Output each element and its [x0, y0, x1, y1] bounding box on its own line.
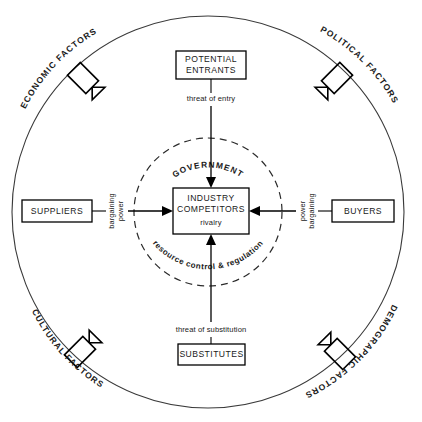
- threat-of-entry-arrowhead: [206, 177, 216, 188]
- political-factors-label: POLITICAL FACTORS: [319, 24, 401, 105]
- suppliers-node: SUPPLIERS: [22, 200, 92, 222]
- suppliers-bargaining-label-line2: power: [116, 200, 125, 221]
- potential-entrants-line2: ENTRANTS: [186, 65, 236, 75]
- industry-competitors-line1: INDUSTRY: [187, 193, 234, 203]
- industry-competitors-sub: rivalry: [200, 218, 222, 227]
- industry-competitors-node: INDUSTRY COMPETITORS rivalry: [173, 188, 249, 234]
- threat-of-substitution-label: threat of substitution: [176, 325, 247, 334]
- suppliers-arrowhead: [162, 206, 173, 216]
- suppliers-label: SUPPLIERS: [31, 206, 83, 216]
- potential-entrants-node: POTENTIAL ENTRANTS: [176, 51, 246, 79]
- political-factors-label-text: POLITICAL FACTORS: [319, 24, 401, 105]
- buyers-arrowhead: [249, 206, 260, 216]
- economic-factors-marker: [67, 62, 104, 99]
- industry-competitors-line2: COMPETITORS: [177, 204, 245, 214]
- buyers-bargaining-label-line2: power: [298, 200, 307, 221]
- potential-entrants-line1: POTENTIAL: [185, 54, 237, 64]
- buyers-bargaining-label-line1: bargaining: [307, 193, 316, 229]
- buyers-node: BUYERS: [332, 200, 394, 222]
- threat-of-entry-label: threat of entry: [187, 94, 235, 103]
- government-ring-label: GOVERNMENT: [170, 159, 245, 179]
- substitutes-label: SUBSTITUTES: [179, 349, 243, 359]
- buyers-label: BUYERS: [344, 206, 382, 216]
- government-ring-label-text: GOVERNMENT: [170, 159, 245, 179]
- threat-of-substitution-arrowhead: [206, 234, 216, 245]
- diagram-canvas: INDUSTRY COMPETITORS rivalry GOVERNMENT …: [0, 0, 422, 422]
- industry-forces-diagram: INDUSTRY COMPETITORS rivalry GOVERNMENT …: [0, 0, 422, 422]
- substitutes-node: SUBSTITUTES: [178, 344, 245, 365]
- political-factors-marker: [315, 62, 352, 99]
- suppliers-bargaining-label-line1: bargaining: [107, 193, 116, 229]
